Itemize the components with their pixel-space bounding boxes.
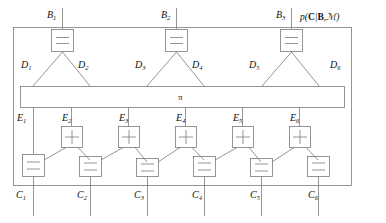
b-label-1: B1 bbox=[47, 10, 56, 22]
d-label-3-sub: 3 bbox=[142, 64, 145, 71]
d6-edge bbox=[292, 52, 320, 86]
c6-box bbox=[308, 157, 330, 177]
c2-box bbox=[80, 157, 102, 177]
c-label-6: C6 bbox=[308, 190, 318, 202]
d-label-5-sub: 5 bbox=[256, 64, 259, 71]
d-label-4-sub: 4 bbox=[199, 64, 202, 71]
c4-box bbox=[194, 157, 216, 177]
d-label-6: D6 bbox=[330, 60, 340, 72]
prob-C: C bbox=[308, 12, 315, 22]
c-label-6-base: C bbox=[308, 189, 315, 200]
d-label-6-sub: 6 bbox=[337, 64, 340, 71]
c-label-3: C3 bbox=[134, 190, 144, 202]
e-label-5-sub: 5 bbox=[239, 117, 242, 124]
e6-to-c5 bbox=[272, 148, 294, 163]
e-label-3-sub: 3 bbox=[125, 117, 128, 124]
c-label-5-sub: 5 bbox=[257, 194, 260, 201]
e-label-4-sub: 4 bbox=[182, 117, 185, 124]
prob-close: ) bbox=[336, 12, 339, 22]
b-label-3-sub: 3 bbox=[282, 14, 285, 21]
c-label-2-sub: 2 bbox=[84, 194, 87, 201]
d-label-3: D3 bbox=[135, 60, 145, 72]
c-label-5-base: C bbox=[250, 189, 257, 200]
prob-M: ℳ bbox=[326, 12, 336, 22]
e-label-4: E4 bbox=[176, 113, 185, 125]
c-label-1-sub: 1 bbox=[23, 194, 26, 201]
c-label-4-sub: 4 bbox=[199, 194, 202, 201]
e2-to-c1 bbox=[44, 148, 66, 161]
d-label-1: D1 bbox=[21, 60, 31, 72]
b2-box bbox=[166, 30, 188, 52]
c-label-3-base: C bbox=[134, 189, 141, 200]
e-label-1-sub: 1 bbox=[23, 117, 26, 124]
d1-edge bbox=[33, 52, 63, 86]
e5-to-c4 bbox=[215, 148, 237, 161]
c1-box bbox=[23, 155, 45, 177]
e4-to-c3 bbox=[158, 148, 180, 163]
c-label-4-base: C bbox=[192, 189, 199, 200]
c-label-6-sub: 6 bbox=[315, 194, 318, 201]
c-label-2: C2 bbox=[77, 190, 87, 202]
b-label-2: B2 bbox=[161, 10, 170, 22]
d-label-2: D2 bbox=[78, 60, 88, 72]
e-label-2: E2 bbox=[62, 113, 71, 125]
b3-box bbox=[281, 30, 303, 52]
b-label-3: B3 bbox=[276, 10, 285, 22]
d-label-5: D5 bbox=[249, 60, 259, 72]
pi-node-label: π bbox=[178, 92, 183, 102]
b1-box bbox=[52, 30, 74, 52]
c-label-1: C1 bbox=[16, 190, 26, 202]
factor-graph-figure: π p(C|B,ℳ) B1 B2 B3 D1 D2 D3 D4 D5 D6 E1… bbox=[0, 0, 386, 223]
d-label-1-sub: 1 bbox=[28, 64, 31, 71]
d3-edge bbox=[147, 52, 177, 86]
e-label-3: E3 bbox=[119, 113, 128, 125]
c3-box bbox=[137, 159, 159, 177]
c-label-2-base: C bbox=[77, 189, 84, 200]
probability-expression-label: p(C|B,ℳ) bbox=[300, 11, 339, 22]
d5-edge bbox=[262, 52, 292, 86]
c5-box bbox=[251, 159, 273, 177]
b-label-1-sub: 1 bbox=[53, 14, 56, 21]
d-label-4: D4 bbox=[192, 60, 202, 72]
c-label-4: C4 bbox=[192, 190, 202, 202]
e-label-6-sub: 6 bbox=[296, 117, 299, 124]
e-label-6: E6 bbox=[290, 113, 299, 125]
c-label-1-base: C bbox=[16, 189, 23, 200]
c-label-3-sub: 3 bbox=[141, 194, 144, 201]
b-label-2-sub: 2 bbox=[167, 14, 170, 21]
e-label-2-sub: 2 bbox=[68, 117, 71, 124]
e-label-5: E5 bbox=[233, 113, 242, 125]
e3-to-c2 bbox=[101, 148, 123, 161]
e-label-1: E1 bbox=[17, 113, 26, 125]
d-label-2-sub: 2 bbox=[85, 64, 88, 71]
c-label-5: C5 bbox=[250, 190, 260, 202]
